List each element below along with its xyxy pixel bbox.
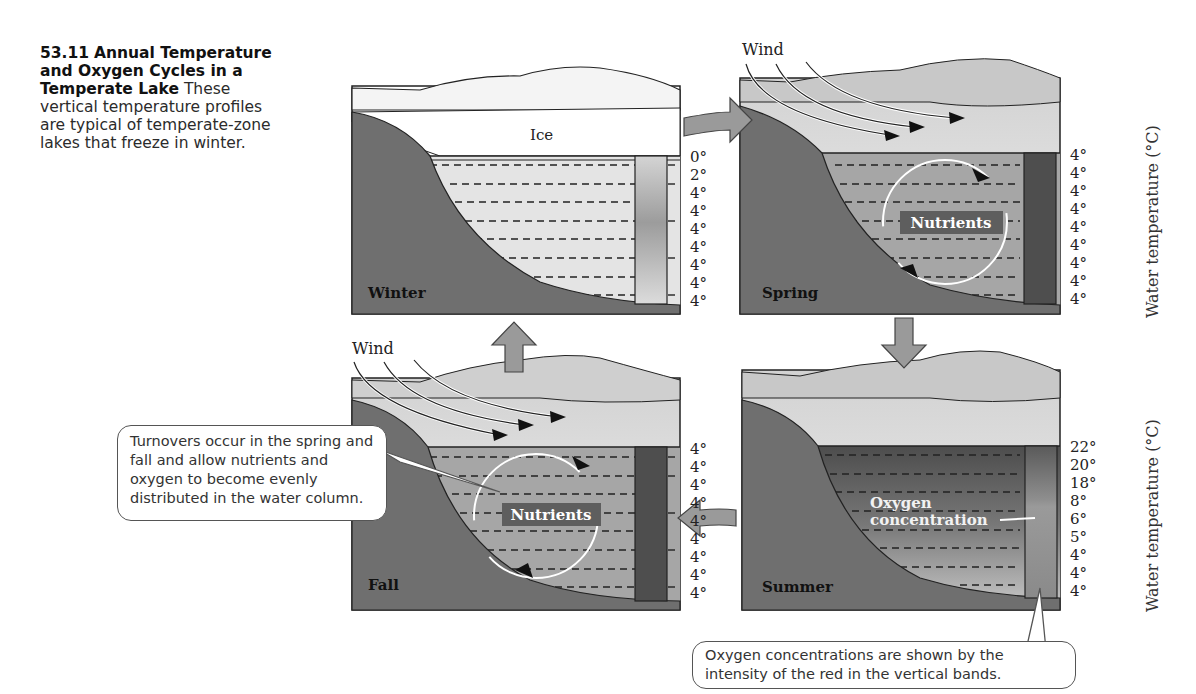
winter-temp-0: 0° bbox=[690, 148, 707, 166]
fall-temp-4: 4° bbox=[690, 512, 707, 530]
fall-temp-2: 4° bbox=[690, 476, 707, 494]
spring-temp-4: 4° bbox=[1070, 218, 1087, 236]
fall-temp-6: 4° bbox=[690, 548, 707, 566]
summer-temp-6: 4° bbox=[1070, 546, 1087, 564]
spring-temp-8: 4° bbox=[1070, 290, 1087, 308]
winter-temp-2: 4° bbox=[690, 184, 707, 202]
fall-season-label: Fall bbox=[368, 576, 399, 594]
summer-oxygen-label-line1: Oxygen bbox=[870, 494, 932, 512]
spring-temp-1: 4° bbox=[1070, 164, 1087, 182]
summer-temp-8: 4° bbox=[1070, 582, 1087, 600]
fall-temperature-scale: 4° 4° 4° 4° 4° 4° 4° 4° 4° bbox=[690, 440, 707, 602]
winter-temp-6: 4° bbox=[690, 256, 707, 274]
spring-temp-3: 4° bbox=[1070, 200, 1087, 218]
winter-oxygen-band bbox=[635, 156, 667, 304]
spring-nutrients-label: Nutrients bbox=[911, 214, 992, 232]
summer-axis-title: Water temperature (°C) bbox=[1143, 419, 1162, 612]
fall-wind-label: Wind bbox=[352, 339, 394, 358]
summer-temp-4: 6° bbox=[1070, 510, 1087, 528]
summer-season-label: Summer bbox=[762, 578, 834, 596]
spring-wind-label: Wind bbox=[742, 40, 784, 59]
fall-temp-3: 4° bbox=[690, 494, 707, 512]
summer-temp-5: 5° bbox=[1070, 528, 1087, 546]
summer-panel: Oxygen concentration Summer bbox=[742, 351, 1060, 610]
fall-temp-1: 4° bbox=[690, 458, 707, 476]
winter-temp-8: 4° bbox=[690, 292, 707, 310]
summer-temp-1: 20° bbox=[1070, 456, 1097, 474]
summer-temp-7: 4° bbox=[1070, 564, 1087, 582]
winter-temp-1: 2° bbox=[690, 166, 707, 184]
turnover-callout: Turnovers occur in the spring and fall a… bbox=[117, 425, 387, 521]
winter-panel: Ice Winter bbox=[352, 67, 680, 314]
fall-oxygen-band bbox=[635, 447, 667, 601]
summer-temp-0: 22° bbox=[1070, 438, 1097, 456]
fall-temp-7: 4° bbox=[690, 566, 707, 584]
lake-cycle-diagram: Ice Winter Wind Nutrients bbox=[0, 0, 1196, 694]
winter-temp-4: 4° bbox=[690, 220, 707, 238]
summer-oxygen-band bbox=[1025, 446, 1057, 598]
spring-season-label: Spring bbox=[762, 284, 819, 302]
summer-oxygen-label-line2: concentration bbox=[870, 511, 988, 529]
spring-temp-0: 4° bbox=[1070, 146, 1087, 164]
fall-temp-0: 4° bbox=[690, 440, 707, 458]
oxygen-callout: Oxygen concentrations are shown by the i… bbox=[692, 641, 1076, 689]
winter-ice-label: Ice bbox=[530, 126, 553, 144]
fall-panel: Wind Nutrients Fall bbox=[352, 339, 680, 610]
oxygen-callout-text: Oxygen concentrations are shown by the i… bbox=[705, 647, 1004, 682]
spring-temp-7: 4° bbox=[1070, 272, 1087, 290]
spring-oxygen-band bbox=[1024, 153, 1056, 304]
summer-temp-3: 8° bbox=[1070, 492, 1087, 510]
fall-temp-5: 4° bbox=[690, 530, 707, 548]
spring-temp-2: 4° bbox=[1070, 182, 1087, 200]
winter-temp-5: 4° bbox=[690, 238, 707, 256]
winter-temp-3: 4° bbox=[690, 202, 707, 220]
spring-axis-title: Water temperature (°C) bbox=[1143, 125, 1162, 318]
spring-panel: Wind Nutrients Spring bbox=[740, 40, 1060, 314]
summer-temp-2: 18° bbox=[1070, 474, 1097, 492]
fall-nutrients-label: Nutrients bbox=[511, 506, 592, 524]
winter-season-label: Winter bbox=[367, 284, 427, 302]
spring-temp-5: 4° bbox=[1070, 236, 1087, 254]
winter-temp-7: 4° bbox=[690, 274, 707, 292]
winter-temperature-scale: 0° 2° 4° 4° 4° 4° 4° 4° 4° bbox=[690, 148, 707, 310]
spring-temperature-scale: 4° 4° 4° 4° 4° 4° 4° 4° 4° bbox=[1070, 146, 1087, 308]
spring-temp-6: 4° bbox=[1070, 254, 1087, 272]
fall-temp-8: 4° bbox=[690, 584, 707, 602]
summer-temperature-scale: 22° 20° 18° 8° 6° 5° 4° 4° 4° bbox=[1070, 438, 1097, 600]
turnover-callout-text: Turnovers occur in the spring and fall a… bbox=[130, 433, 373, 506]
